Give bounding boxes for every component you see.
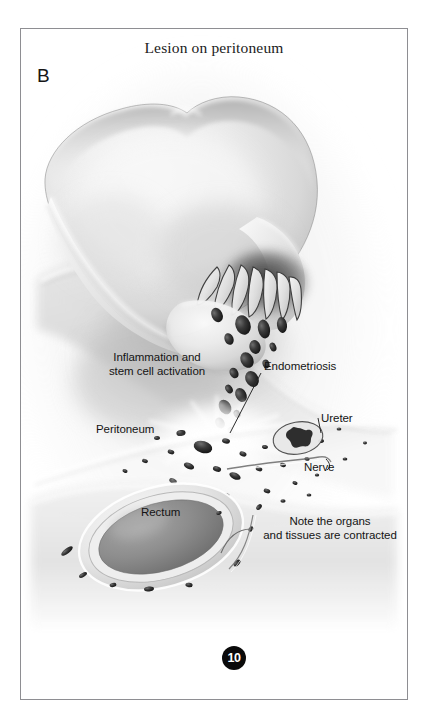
annotation-note-line2: and tissues are contracted [254,529,406,543]
annotation-inflammation: Inflammation and stem cell activation [89,351,225,378]
annotation-endometriosis: Endometriosis [264,360,336,374]
figure-title: Lesion on peritoneum [21,39,407,57]
figure-page: Lesion on peritoneum B Inflammation and … [0,0,427,719]
panel-letter: B [37,65,50,87]
page-number-badge: 10 [222,646,246,670]
annotation-note-line1: Note the organs [254,515,406,529]
annotation-note: Note the organs and tissues are contract… [254,515,406,542]
annotation-ureter: Ureter [321,412,353,426]
annotation-peritoneum: Peritoneum [96,423,154,437]
annotation-nerve: Nerve [304,461,334,475]
annotation-rectum: Rectum [141,506,180,520]
figure-frame: Lesion on peritoneum B Inflammation and … [20,28,408,700]
annotation-inflammation-line2: stem cell activation [89,365,225,379]
annotation-inflammation-line1: Inflammation and [89,351,225,365]
